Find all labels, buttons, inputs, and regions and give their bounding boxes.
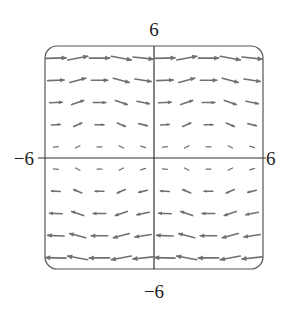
arrowhead-icon bbox=[160, 190, 164, 193]
vector-field-plot: 6 −6 −6 6 bbox=[0, 0, 292, 315]
arrowhead-icon bbox=[58, 123, 62, 126]
vector-arrow bbox=[250, 146, 255, 147]
arrowhead-icon bbox=[61, 55, 67, 60]
arrowhead-icon bbox=[110, 256, 116, 261]
arrowhead-icon bbox=[189, 100, 194, 103]
arrowhead-icon bbox=[203, 190, 207, 193]
arrowhead-icon bbox=[213, 78, 218, 82]
arrowhead-icon bbox=[201, 212, 205, 216]
arrowhead-icon bbox=[94, 190, 98, 193]
vector-arrow bbox=[228, 168, 232, 170]
arrowhead-icon bbox=[158, 212, 162, 216]
arrowhead-icon bbox=[103, 101, 107, 105]
y-min-label: −6 bbox=[144, 281, 164, 302]
arrowhead-icon bbox=[182, 189, 186, 192]
arrowhead-icon bbox=[124, 102, 129, 105]
arrowhead-icon bbox=[71, 211, 76, 214]
arrowhead-icon bbox=[79, 123, 83, 126]
arrowhead-icon bbox=[47, 233, 52, 237]
arrowhead-icon bbox=[51, 190, 55, 193]
arrowhead-icon bbox=[169, 78, 174, 82]
arrowhead-icon bbox=[60, 78, 65, 82]
vector-arrow bbox=[185, 146, 189, 148]
vector-arrow bbox=[141, 168, 146, 169]
vector-arrow bbox=[228, 146, 232, 148]
plot-canvas: 6 −6 −6 6 bbox=[0, 0, 292, 315]
arrowhead-icon bbox=[197, 255, 203, 260]
arrowhead-icon bbox=[90, 233, 95, 237]
arrowhead-icon bbox=[83, 55, 89, 60]
vector-arrow bbox=[76, 168, 80, 170]
arrowhead-icon bbox=[49, 212, 53, 216]
arrowhead-icon bbox=[214, 56, 220, 61]
arrowhead-icon bbox=[225, 191, 229, 194]
vector-arrow bbox=[119, 168, 123, 170]
vector-arrow bbox=[76, 146, 80, 148]
arrowhead-icon bbox=[126, 57, 132, 62]
arrowhead-icon bbox=[156, 233, 161, 237]
arrowhead-icon bbox=[105, 56, 111, 61]
arrowhead-icon bbox=[219, 256, 225, 261]
x-max-label: 6 bbox=[266, 148, 276, 169]
arrowhead-icon bbox=[167, 123, 171, 126]
arrowhead-icon bbox=[223, 213, 228, 216]
arrowhead-icon bbox=[92, 212, 96, 216]
arrowhead-icon bbox=[170, 55, 176, 60]
vector-arrow bbox=[250, 168, 255, 169]
arrowhead-icon bbox=[88, 255, 94, 260]
arrowhead-icon bbox=[235, 57, 241, 62]
arrowhead-icon bbox=[212, 101, 216, 105]
arrowhead-icon bbox=[192, 55, 198, 60]
arrowhead-icon bbox=[231, 124, 235, 127]
arrowhead-icon bbox=[180, 211, 185, 214]
arrowhead-icon bbox=[73, 189, 77, 192]
arrowhead-icon bbox=[67, 254, 73, 259]
vector-arrow bbox=[141, 146, 146, 147]
vector-arrow bbox=[185, 168, 189, 170]
arrowhead-icon bbox=[233, 102, 238, 105]
arrowhead-icon bbox=[199, 233, 204, 237]
vector-arrow bbox=[119, 146, 123, 148]
arrowhead-icon bbox=[176, 254, 182, 259]
x-min-label: −6 bbox=[14, 148, 34, 169]
arrowhead-icon bbox=[80, 100, 85, 103]
arrowhead-icon bbox=[59, 101, 63, 105]
arrowhead-icon bbox=[210, 123, 214, 126]
arrowhead-icon bbox=[101, 123, 105, 126]
y-max-label: 6 bbox=[149, 19, 159, 40]
arrowhead-icon bbox=[114, 213, 119, 216]
arrowhead-icon bbox=[168, 101, 172, 105]
arrowhead-icon bbox=[104, 78, 109, 82]
arrowhead-icon bbox=[116, 191, 120, 194]
arrowhead-icon bbox=[122, 124, 126, 127]
arrowhead-icon bbox=[188, 123, 192, 126]
